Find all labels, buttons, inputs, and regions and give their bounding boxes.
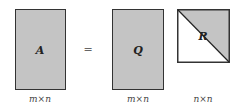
matrix-a-dims: m×n xyxy=(29,94,51,104)
matrix-r-label: R xyxy=(198,30,207,43)
matrix-a-label: A xyxy=(36,44,45,57)
matrix-q-dims: m×n xyxy=(127,94,149,104)
equals-sign: = xyxy=(83,43,92,56)
matrix-q-label: Q xyxy=(133,44,143,57)
matrix-r-dims: n×n xyxy=(193,94,212,104)
